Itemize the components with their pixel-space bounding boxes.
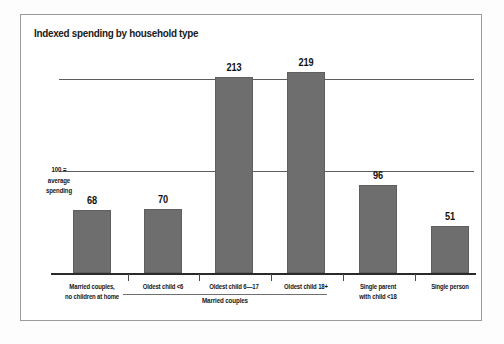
category-label-line: Oldest child <6 bbox=[127, 282, 199, 292]
bar-single-parent bbox=[359, 185, 397, 273]
bar-value-label: 70 bbox=[146, 194, 181, 205]
plot-area: 100 = average spending 68 70 213 219 96 … bbox=[21, 15, 481, 320]
gridline-200 bbox=[59, 79, 474, 80]
axis-tick bbox=[415, 274, 416, 281]
chart-screenshot: Indexed spending by household type 100 =… bbox=[0, 0, 504, 344]
bar-oldest-child-18-plus bbox=[287, 72, 325, 273]
bar-oldest-child-under-6 bbox=[144, 209, 182, 273]
category-label-line: no children at home bbox=[52, 292, 132, 302]
gridline-100 bbox=[59, 171, 474, 172]
category-label: Oldest child 18+ bbox=[270, 282, 342, 292]
group-bracket-line bbox=[123, 294, 327, 295]
bar-value-label: 213 bbox=[217, 62, 252, 73]
bar-married-no-children bbox=[73, 210, 111, 273]
category-label-line: Single person bbox=[414, 282, 486, 292]
category-label-line: Oldest child 6—17 bbox=[198, 282, 270, 292]
axis-note-line-2: average bbox=[34, 176, 83, 187]
category-label: Single parent with child <18 bbox=[342, 282, 414, 302]
bar-value-label: 51 bbox=[433, 211, 468, 222]
group-bracket-label: Married couples bbox=[128, 297, 322, 304]
axis-tick bbox=[343, 274, 344, 281]
category-label-line: Married couples, bbox=[52, 282, 132, 292]
axis-note-line-1: 100 = bbox=[34, 165, 83, 176]
bar-single-person bbox=[431, 226, 469, 273]
axis-baseline bbox=[51, 273, 476, 275]
category-label: Single person bbox=[414, 282, 486, 292]
bar-oldest-child-6-17 bbox=[215, 77, 253, 273]
category-label-line: Single parent bbox=[342, 282, 414, 292]
chart-card-frame: Indexed spending by household type 100 =… bbox=[20, 14, 482, 321]
category-label-line: with child <18 bbox=[342, 292, 414, 302]
axis-tick bbox=[128, 274, 129, 281]
axis-tick bbox=[271, 274, 272, 281]
bar-value-label: 96 bbox=[361, 170, 396, 181]
axis-tick bbox=[199, 274, 200, 281]
category-label: Oldest child 6—17 bbox=[198, 282, 270, 292]
axis-note: 100 = average spending bbox=[34, 165, 83, 197]
category-label: Oldest child <6 bbox=[127, 282, 199, 292]
bar-value-label: 219 bbox=[289, 57, 324, 68]
bar-value-label: 68 bbox=[75, 195, 110, 206]
category-label-line: Oldest child 18+ bbox=[270, 282, 342, 292]
category-label: Married couples, no children at home bbox=[52, 282, 132, 302]
